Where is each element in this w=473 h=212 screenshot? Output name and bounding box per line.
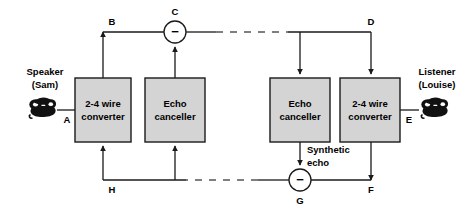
node-label-h: H	[109, 184, 116, 195]
synthetic-echo-label-line1: Synthetic	[307, 144, 350, 155]
telephone-icon	[29, 97, 56, 118]
block-label-line1: Echo	[288, 98, 311, 109]
listener-label-line2: (Louise)	[419, 79, 456, 90]
speaker-label-line1: Speaker	[27, 66, 64, 77]
node-label-a: A	[64, 114, 71, 125]
block-label-line1: 2-4 wire	[85, 98, 120, 109]
minus-sign-icon: −	[296, 172, 304, 187]
block-left-echo-canceller[interactable]: Echo canceller	[145, 78, 205, 142]
minus-sign-icon: −	[171, 24, 179, 39]
block-label-line2: converter	[81, 111, 125, 122]
block-right-echo-canceller[interactable]: Echo canceller	[270, 78, 330, 142]
node-label-c: C	[172, 6, 179, 17]
summing-junction-g[interactable]: −	[289, 169, 311, 191]
summing-junction-c[interactable]: −	[164, 21, 186, 43]
block-label-line1: 2-4 wire	[352, 98, 387, 109]
node-label-d: D	[368, 16, 375, 27]
telephone-icon	[421, 97, 448, 118]
node-label-g: G	[296, 195, 303, 206]
node-label-f: F	[368, 184, 374, 195]
speaker-label-line2: (Sam)	[32, 79, 58, 90]
echo-cancellation-diagram: 2-4 wire converter Echo canceller Echo c…	[0, 0, 473, 212]
node-label-b: B	[109, 16, 116, 27]
block-label-line2: converter	[348, 111, 392, 122]
block-left-2to4-converter[interactable]: 2-4 wire converter	[75, 78, 131, 142]
node-label-e: E	[406, 114, 412, 125]
listener-party: Listener (Louise)	[419, 66, 456, 119]
block-label-line2: canceller	[279, 111, 320, 122]
diagram-canvas: 2-4 wire converter Echo canceller Echo c…	[0, 0, 473, 212]
listener-label-line1: Listener	[419, 66, 456, 77]
block-label-line2: canceller	[154, 111, 195, 122]
block-label-line1: Echo	[163, 98, 186, 109]
synthetic-echo-label-line2: echo	[307, 157, 329, 168]
top-signal-path	[103, 32, 371, 78]
block-right-2to4-converter[interactable]: 2-4 wire converter	[340, 78, 400, 142]
